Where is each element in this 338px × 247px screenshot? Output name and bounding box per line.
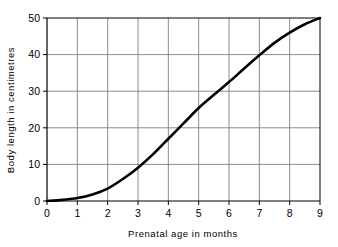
x-tick-label: 3 xyxy=(135,207,141,219)
x-tick-label: 8 xyxy=(287,207,293,219)
y-tick-label: 50 xyxy=(28,12,40,24)
y-tick-label: 40 xyxy=(28,48,40,60)
x-tick-label: 2 xyxy=(105,207,111,219)
x-tick-label: 9 xyxy=(317,207,323,219)
x-tick-label: 6 xyxy=(226,207,232,219)
x-tick-label: 0 xyxy=(44,207,50,219)
growth-curve-chart: 0123456789 01020304050 Prenatal age in m… xyxy=(0,0,338,247)
y-tick-label: 20 xyxy=(28,122,40,134)
y-axis-title: Body length in centimetres xyxy=(5,47,16,173)
chart-figure: 0123456789 01020304050 Prenatal age in m… xyxy=(0,0,338,247)
x-tick-label: 4 xyxy=(165,207,171,219)
y-tick-label: 10 xyxy=(28,158,40,170)
y-tick-label: 30 xyxy=(28,85,40,97)
x-tick-label: 1 xyxy=(74,207,80,219)
x-tick-label: 5 xyxy=(196,207,202,219)
y-tick-label: 0 xyxy=(34,195,40,207)
x-axis-title: Prenatal age in months xyxy=(128,228,238,239)
x-tick-label: 7 xyxy=(256,207,262,219)
